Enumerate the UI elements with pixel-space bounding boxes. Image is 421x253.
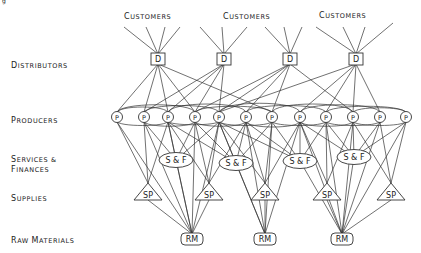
- producer-supply-edge: [326, 122, 327, 183]
- distributor-producer-edge: [356, 64, 380, 112]
- sf-node-label: S & F: [343, 153, 364, 162]
- sf-node-label: S & F: [225, 159, 246, 168]
- producer-node-label: P: [244, 114, 248, 122]
- producer-node-label: P: [193, 114, 197, 122]
- customer-edge: [200, 27, 224, 54]
- producer-node-label: P: [298, 114, 302, 122]
- customer-edge: [284, 27, 290, 54]
- tier-label-distributors: DISTRIBUTORS: [11, 61, 68, 70]
- raw-node-label: RM: [336, 235, 349, 244]
- producer-node-label: P: [142, 114, 146, 122]
- figure-caption-fragment: g: [2, 0, 6, 5]
- producer-node-label: P: [115, 114, 119, 122]
- producer-supply-edge: [148, 122, 168, 183]
- producer-raw-edge: [300, 122, 342, 234]
- supply-node-label: SP: [322, 191, 332, 200]
- producer-sf-edge: [219, 122, 300, 161]
- producer-supply-edge: [144, 122, 148, 183]
- customer-edge: [124, 27, 158, 54]
- producer-supply-edge: [117, 122, 148, 183]
- sf-node-label: S & F: [289, 157, 310, 166]
- producer-node-label: P: [217, 114, 221, 122]
- customer-edge: [290, 27, 302, 54]
- distributor-node-label: D: [221, 55, 227, 64]
- supply-node-label: SP: [143, 191, 153, 200]
- producer-node-label: P: [324, 114, 328, 122]
- producer-node-label: P: [270, 114, 274, 122]
- producer-supply-edge: [209, 122, 219, 183]
- producer-raw-edge: [192, 122, 195, 234]
- supply-node-label: SP: [204, 191, 214, 200]
- supply-raw-edge: [192, 200, 209, 234]
- sf-node-label: S & F: [165, 156, 186, 165]
- producer-raw-edge: [246, 122, 265, 234]
- distributor-node-label: D: [353, 55, 359, 64]
- raw-node-label: RM: [186, 235, 199, 244]
- tier-label-services: SERVICES &: [11, 155, 57, 164]
- customer-edge: [316, 27, 356, 54]
- raw-node-label: RM: [259, 235, 272, 244]
- producer-raw-edge: [265, 122, 272, 234]
- supply-raw-edge: [342, 200, 391, 234]
- tier-label-raw-materials: RAW MATERIALS: [11, 236, 75, 245]
- producer-node-label: P: [166, 114, 170, 122]
- producer-arcs: [117, 103, 406, 127]
- producer-node-label: P: [351, 114, 355, 122]
- producer-supply-edge: [246, 122, 265, 183]
- sf-raw-edge: [176, 160, 192, 234]
- tier-label-supplies: SUPPLIES: [11, 194, 47, 203]
- distributor-producer-edge: [353, 64, 356, 112]
- distributor-node-label: D: [155, 55, 161, 64]
- tier-label-finances: FINANCES: [11, 165, 49, 174]
- customer-edge: [356, 23, 393, 54]
- supply-chain-diagram: g DISTRIBUTORS PRODUCERS SERVICES & FINA…: [0, 0, 421, 253]
- producer-arc: [326, 106, 406, 113]
- tier-label-producers: PRODUCERS: [11, 116, 58, 125]
- customers-label-3: CUSTOMERS: [319, 11, 366, 20]
- distributor-node-label: D: [287, 55, 293, 64]
- customers-label-2: CUSTOMERS: [223, 12, 270, 21]
- producer-supply-edge: [391, 122, 406, 183]
- customer-edge: [265, 27, 290, 54]
- customer-edge: [224, 27, 247, 54]
- producer-raw-edge: [144, 122, 192, 234]
- supply-node-label: SP: [260, 191, 270, 200]
- supply-node-label: SP: [386, 191, 396, 200]
- producer-node-label: P: [404, 114, 408, 122]
- customer-edge: [146, 27, 158, 54]
- producer-supply-edge: [195, 122, 209, 183]
- sf-raw-edge: [342, 157, 354, 234]
- producer-raw-edge: [117, 122, 192, 234]
- producer-node-label: P: [378, 114, 382, 122]
- customer-edge: [222, 27, 224, 54]
- customers-label-1: CUSTOMERS: [124, 12, 171, 21]
